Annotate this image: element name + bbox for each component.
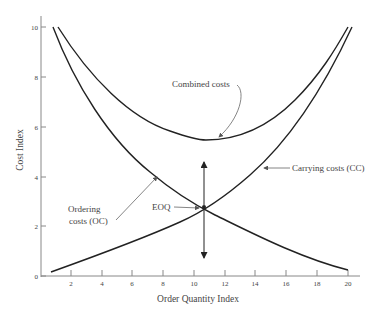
y-tick-labels: 0 2 4 6 8 10 [31, 24, 39, 281]
carrying-costs-curve [51, 27, 352, 272]
x-tick-label: 14 [252, 280, 260, 288]
axes [41, 16, 360, 277]
combined-costs-pointer [219, 85, 241, 137]
y-axis-title: Cost Index [15, 129, 25, 171]
y-tick-label: 4 [35, 174, 39, 182]
x-tick-label: 6 [130, 280, 134, 288]
x-tick-label: 18 [314, 280, 322, 288]
y-tick-label: 2 [35, 223, 39, 231]
ordering-costs-pointer [116, 177, 157, 220]
x-ticks [71, 270, 348, 276]
x-tick-label: 20 [345, 280, 353, 288]
y-tick-label: 8 [35, 74, 39, 82]
combined-costs-label: Combined costs [172, 79, 230, 89]
y-tick-label: 10 [31, 24, 39, 32]
ordering-costs-curve [53, 27, 348, 270]
x-tick-label: 8 [161, 280, 165, 288]
x-tick-label: 4 [100, 280, 104, 288]
y-tick-label: 0 [35, 273, 39, 281]
x-axis-title: Order Quantity Index [157, 294, 239, 304]
eoq-label: EOQ [152, 202, 171, 212]
x-tick-label: 12 [222, 280, 230, 288]
y-ticks [41, 27, 46, 276]
x-tick-label: 16 [283, 280, 291, 288]
ordering-costs-label-line1: Ordering [68, 204, 101, 214]
x-tick-labels: 2 4 6 8 10 12 14 16 18 20 [69, 280, 352, 288]
x-tick-label: 2 [69, 280, 73, 288]
carrying-costs-label: Carrying costs (CC) [292, 163, 365, 173]
ordering-costs-label-line2: costs (OC) [69, 216, 108, 226]
eoq-point [202, 205, 206, 209]
eoq-chart: 0 2 4 6 8 10 2 4 6 8 10 12 14 16 18 20 O… [0, 0, 388, 315]
y-tick-label: 6 [35, 124, 39, 132]
x-tick-label: 10 [191, 280, 199, 288]
eoq-pointer [174, 207, 199, 208]
